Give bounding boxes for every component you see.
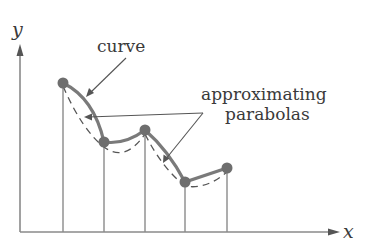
simpson-diagram: y x — [0, 0, 369, 251]
arrowhead-icon — [84, 114, 92, 121]
curve-label: curve — [97, 36, 145, 56]
data-point — [58, 78, 69, 89]
pointer-arrowheads — [84, 88, 170, 163]
data-point — [99, 137, 110, 148]
parabola-pointer-2 — [165, 113, 203, 160]
arrowhead-icon — [86, 88, 94, 97]
parabola-pointer-1 — [88, 113, 203, 117]
curve-pointer — [89, 58, 126, 94]
approximating-label: approximating — [201, 84, 327, 104]
y-axis-arrowhead — [17, 44, 24, 56]
x-axis-label: x — [343, 220, 354, 242]
data-point — [180, 177, 191, 188]
x-axis-arrowhead — [328, 229, 340, 236]
data-point — [222, 163, 233, 174]
data-point — [140, 125, 151, 136]
y-axis-label: y — [11, 18, 23, 40]
parabolas-label: parabolas — [225, 104, 310, 124]
